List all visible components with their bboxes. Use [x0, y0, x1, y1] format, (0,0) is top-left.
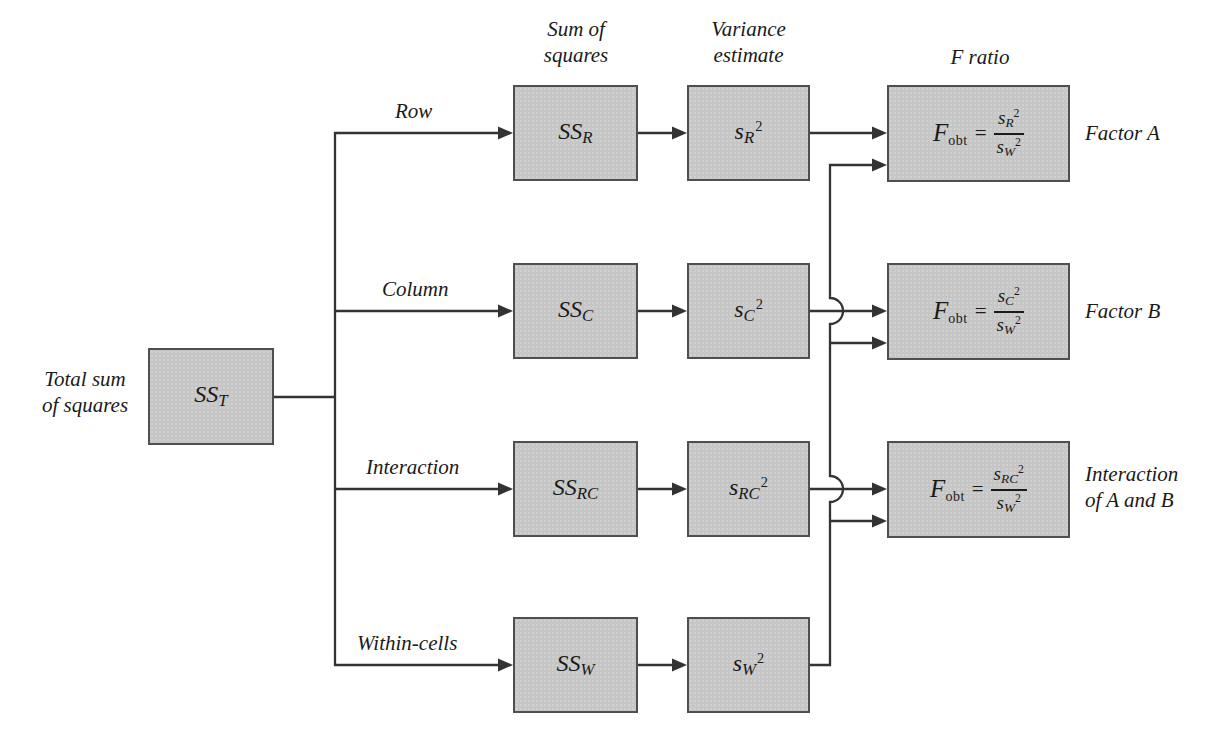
symbol-sub: W — [1004, 322, 1015, 337]
symbol-sub: W — [1004, 500, 1015, 515]
symbol-base: s — [997, 136, 1004, 157]
symbol-sub: RC — [738, 484, 759, 503]
fraction-bar — [991, 489, 1027, 491]
symbol-base: s — [997, 492, 1004, 513]
total-sum-label: Total sum of squares — [28, 366, 142, 418]
fraction: sR2 sW2 — [994, 107, 1024, 160]
f-ratio-interaction-formula: Fobt = sRC2 sW2 — [930, 463, 1027, 516]
sw-feed-line — [810, 165, 873, 665]
trunk-line — [335, 133, 499, 665]
arrowhead — [672, 483, 687, 496]
ss-within-box: SSW — [513, 617, 638, 713]
symbol-sub: R — [582, 128, 592, 147]
variance-interaction-symbol: sRC2 — [729, 474, 768, 504]
ss-row-box: SSR — [513, 85, 638, 181]
symbol-base: s — [729, 474, 738, 500]
symbol-sup: 2 — [1015, 492, 1021, 505]
symbol-sub: W — [742, 660, 756, 679]
f-ratio-factor-b-box: Fobt = sC2 sW2 — [887, 263, 1070, 360]
symbol-base: F — [930, 475, 945, 502]
header-line: Variance — [673, 16, 824, 42]
header-line: Sum of — [500, 16, 652, 42]
symbol-sup: 2 — [757, 650, 764, 666]
fraction: sRC2 sW2 — [991, 463, 1027, 516]
f-ratio-factor-b-formula: Fobt = sC2 sW2 — [933, 285, 1024, 338]
f-ratio-interaction-box: Fobt = sRC2 sW2 — [887, 441, 1070, 538]
ss-row-symbol: SSR — [558, 118, 592, 148]
equals-sign: = — [975, 299, 987, 324]
ss-total-box: SST — [148, 348, 274, 445]
variance-interaction-box: sRC2 — [687, 441, 810, 537]
fraction-bar — [994, 133, 1024, 135]
equals-sign: = — [972, 477, 984, 502]
arrowhead — [872, 483, 887, 496]
variance-column-symbol: sC2 — [734, 296, 763, 326]
symbol-base: SS — [194, 381, 218, 407]
symbol-base: SS — [558, 296, 582, 322]
symbol-sub: RC — [577, 484, 598, 503]
symbol-sup: 2 — [1014, 285, 1020, 298]
ss-within-symbol: SSW — [557, 650, 595, 680]
symbol-sub: W — [1004, 144, 1015, 159]
arrowhead — [498, 305, 513, 318]
symbol-sub: obt — [948, 310, 967, 325]
header-f-ratio: F ratio — [905, 44, 1055, 70]
symbol-sub: T — [218, 392, 227, 411]
arrowhead — [672, 305, 687, 318]
variance-row-symbol: sR2 — [735, 118, 763, 148]
symbol-sup: 2 — [1018, 463, 1024, 476]
symbol-base: s — [998, 285, 1005, 306]
branch-label-row: Row — [395, 98, 432, 124]
symbol-base: s — [735, 118, 744, 144]
label-line: Interaction — [1085, 461, 1178, 487]
arrowhead — [498, 659, 513, 672]
symbol-sup: 2 — [1014, 107, 1020, 120]
result-label-factor-a: Factor A — [1085, 120, 1160, 146]
variance-within-symbol: sW2 — [733, 650, 765, 680]
branch-label-within-cells: Within-cells — [357, 630, 457, 656]
symbol-base: F — [933, 119, 948, 146]
branch-label-interaction: Interaction — [366, 454, 459, 480]
arrowhead — [498, 127, 513, 140]
denominator: sW2 — [994, 136, 1024, 161]
header-line: F ratio — [905, 44, 1055, 70]
f-ratio-factor-a-box: Fobt = sR2 sW2 — [887, 85, 1070, 182]
header-sum-of-squares: Sum of squares — [500, 16, 652, 68]
numerator: sRC2 — [991, 463, 1027, 488]
arrowhead — [872, 337, 887, 350]
fraction: sC2 sW2 — [994, 285, 1024, 338]
ss-total-symbol: SST — [194, 381, 227, 411]
symbol-sup: 2 — [1015, 136, 1021, 149]
symbol-base: s — [733, 650, 742, 676]
arrowhead — [672, 127, 687, 140]
symbol-base: SS — [553, 474, 577, 500]
ss-column-box: SSC — [513, 263, 638, 359]
symbol-sub: C — [1005, 293, 1014, 308]
symbol-sub: obt — [945, 488, 964, 503]
symbol-base: SS — [557, 650, 581, 676]
label-line: of squares — [28, 392, 142, 418]
branch-label-column: Column — [382, 276, 449, 302]
denominator: sW2 — [994, 314, 1024, 339]
numerator: sC2 — [995, 285, 1023, 310]
symbol-sub: R — [1005, 115, 1013, 130]
label-line: Total sum — [28, 366, 142, 392]
symbol-sup: 2 — [756, 296, 763, 312]
arrowhead — [498, 483, 513, 496]
arrowheads — [498, 127, 887, 672]
variance-column-box: sC2 — [687, 263, 810, 359]
numerator: sR2 — [995, 107, 1022, 132]
variance-row-box: sR2 — [687, 85, 810, 181]
symbol-base: F — [933, 297, 948, 324]
f-symbol: Fobt — [933, 119, 968, 149]
symbol-sub: R — [744, 128, 754, 147]
arrowhead — [672, 659, 687, 672]
symbol-base: s — [994, 463, 1001, 484]
denominator: sW2 — [994, 492, 1024, 517]
ss-interaction-symbol: SSRC — [553, 474, 598, 504]
variance-within-box: sW2 — [687, 617, 810, 713]
arrowhead — [872, 159, 887, 172]
f-symbol: Fobt — [930, 475, 965, 505]
symbol-sup: 2 — [755, 118, 762, 134]
symbol-base: SS — [558, 118, 582, 144]
